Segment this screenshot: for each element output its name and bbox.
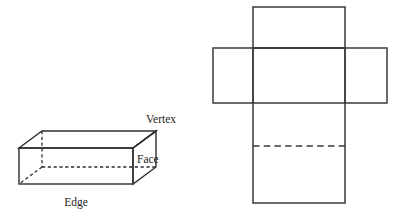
- cuboid-net: [213, 7, 387, 203]
- cuboid-front-face: [19, 148, 133, 184]
- net-rect-horizontal-band: [213, 48, 387, 103]
- face-label: Face: [137, 153, 159, 165]
- figure-root: Vertex Face Edge: [0, 0, 405, 223]
- labelled-cuboid: Vertex Face Edge: [19, 113, 176, 209]
- geometry-diagram: Vertex Face Edge: [0, 0, 405, 223]
- vertex-leader-line: [133, 131, 156, 148]
- net-rect-top-flap: [253, 7, 345, 48]
- net-rect-vertical-strip: [253, 48, 345, 203]
- vertex-label: Vertex: [146, 113, 176, 125]
- edge-label: Edge: [64, 196, 88, 209]
